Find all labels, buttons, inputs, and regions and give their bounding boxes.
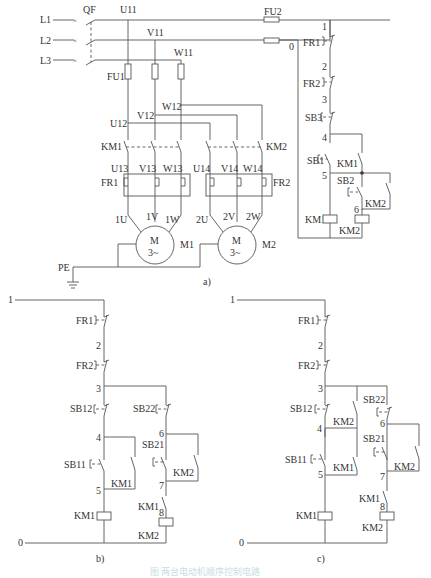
label-km1-main: KM1	[101, 141, 122, 152]
b-wire-4: 4	[96, 432, 101, 443]
figure-caption: 图 两台电动机顺序控制电路	[150, 566, 260, 577]
c-wire-4: 4	[317, 423, 322, 434]
c-label-km2-parallel: KM2	[333, 416, 354, 427]
b-wire-6: 6	[159, 428, 164, 439]
b-wire-5: 5	[96, 485, 101, 496]
label-w13: W13	[163, 163, 182, 174]
c-km2-coil	[380, 512, 394, 520]
panel-a-control-circuit: FU2 0 1 FR1 2 FR2 3 SB3 4	[264, 6, 390, 238]
label-m2: M2	[262, 239, 276, 250]
label-fu1: FU1	[107, 71, 125, 82]
c-label-sb22: SB22	[363, 394, 385, 405]
motor-m2-phase: 3~	[230, 247, 241, 258]
b-wire-1: 1	[8, 294, 13, 305]
b-wire-7: 7	[159, 480, 164, 491]
panel-c-label: c)	[317, 553, 325, 565]
label-2u: 2U	[196, 214, 209, 225]
motor-m2-symbol: M	[232, 235, 241, 246]
km1-coil	[323, 215, 337, 223]
c-wire-5: 5	[318, 469, 323, 480]
label-pe: PE	[58, 262, 70, 273]
panel-c-control-circuit: 1 FR1 2 FR2 3 SB12 KM2 SB22	[230, 294, 419, 565]
c-label-sb12: SB12	[290, 403, 312, 414]
b-label-fr2: FR2	[76, 360, 93, 371]
label-sb3: SB3	[305, 112, 322, 123]
b-label-km1-coil: KM1	[74, 510, 95, 521]
c-label-sb21: SB21	[363, 433, 385, 444]
label-2v: 2V	[223, 211, 236, 222]
label-l2: L2	[40, 35, 51, 46]
fuse-fu2-a	[264, 17, 279, 22]
label-sb2: SB2	[337, 175, 354, 186]
km2-main-contacts	[206, 141, 262, 152]
c-label-km1-interlock: KM1	[359, 493, 380, 504]
panel-a-label: a)	[203, 276, 211, 288]
fuse-fu1-u	[125, 64, 131, 79]
fuse-fu1-v	[152, 64, 158, 79]
c-label-km1-coil: KM1	[296, 510, 317, 521]
svg-text:×: ×	[73, 17, 77, 25]
b-wire-8: 8	[159, 507, 164, 518]
label-l1: L1	[40, 14, 51, 25]
b-label-km1-interlock: KM1	[138, 501, 159, 512]
b-km1-coil	[97, 512, 111, 520]
b-label-km1-seal: KM1	[111, 478, 132, 489]
b-label-sb12: SB12	[70, 403, 92, 414]
wire-6: 6	[354, 204, 359, 215]
wire-0: 0	[289, 41, 294, 52]
b-wire-3: 3	[96, 383, 101, 394]
c-label-km2-seal: KM2	[394, 461, 415, 472]
label-qf: QF	[83, 4, 96, 15]
label-fr1-ctrl: FR1	[303, 37, 320, 48]
motor-m1-symbol: M	[150, 235, 159, 246]
b-label-fr1: FR1	[76, 315, 93, 326]
b-label-km2-coil: KM2	[138, 530, 159, 541]
fuse-fu2-b	[264, 38, 279, 43]
svg-text:×: ×	[73, 57, 77, 65]
circuit-diagram: L1 L2 L3 × × × QF U11 V11 W11 FU1 U12	[0, 0, 431, 578]
label-fr2-ctrl: FR2	[303, 78, 320, 89]
panel-b-control-circuit: 1 FR1 2 FR2 3 SB12 SB22 4	[8, 294, 198, 565]
fuse-fu1-w	[178, 64, 184, 79]
ground-icon	[67, 282, 79, 288]
label-u14: U14	[193, 163, 210, 174]
label-1u: 1U	[115, 214, 128, 225]
label-v14: V14	[221, 163, 238, 174]
c-wire-1: 1	[230, 294, 235, 305]
label-1v: 1V	[146, 211, 159, 222]
label-w12: W12	[162, 101, 181, 112]
label-u12: U12	[110, 118, 127, 129]
c-wire-3: 3	[318, 383, 323, 394]
label-m1: M1	[180, 239, 194, 250]
b-label-km2-seal: KM2	[173, 467, 194, 478]
label-fr1-main: FR1	[101, 177, 118, 188]
label-w11: W11	[174, 47, 193, 58]
b-label-sb11: SB11	[64, 459, 86, 470]
c-wire-8: 8	[380, 501, 385, 512]
label-fr2-main: FR2	[273, 177, 290, 188]
fr1-thermal-element	[124, 174, 190, 196]
motor-m1-phase: 3~	[148, 247, 159, 258]
c-wire-6: 6	[380, 418, 385, 429]
km1-main-contacts	[124, 141, 181, 152]
c-wire-2: 2	[318, 340, 323, 351]
c-label-km1-seal: KM1	[333, 462, 354, 473]
c-label-sb11: SB11	[285, 454, 307, 465]
wire-5: 5	[322, 170, 327, 181]
label-v11: V11	[147, 27, 164, 38]
b-wire-0: 0	[18, 537, 23, 548]
label-u11: U11	[120, 4, 137, 15]
panel-a-main-circuit: L1 L2 L3 × × × QF U11 V11 W11 FU1 U12	[40, 4, 390, 288]
label-v13: V13	[139, 163, 156, 174]
b-label-sb21: SB21	[142, 439, 164, 450]
wire-2: 2	[322, 61, 327, 72]
label-km2-aux: KM2	[365, 198, 386, 209]
label-sb1: SB1	[307, 155, 324, 166]
c-label-fr1: FR1	[298, 315, 315, 326]
c-label-fr2: FR2	[298, 360, 315, 371]
c-wire-7: 7	[380, 471, 385, 482]
c-km1-coil	[318, 512, 332, 520]
label-km1-aux: KM1	[337, 158, 358, 169]
label-l3: L3	[40, 55, 51, 66]
c-wire-0: 0	[239, 537, 244, 548]
